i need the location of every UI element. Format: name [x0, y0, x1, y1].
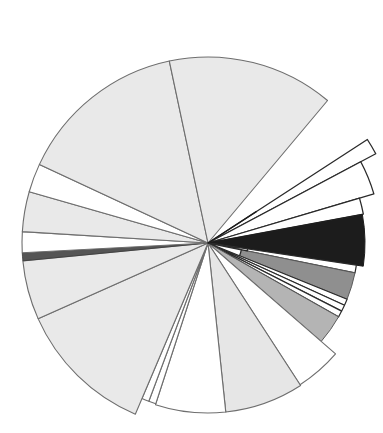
rose-chart-svg	[0, 0, 383, 433]
polar-area-chart	[0, 0, 383, 433]
